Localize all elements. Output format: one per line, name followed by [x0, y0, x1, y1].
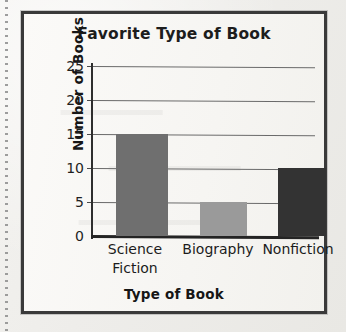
chart-frame: Favorite Type of Book Number of Books 25…: [21, 11, 327, 314]
gridline-25: [93, 66, 315, 68]
x-label-nonfiction: Nonfiction: [256, 240, 340, 259]
y-tick-label-15: 15: [40, 126, 84, 142]
y-tick-label-25: 25: [40, 58, 84, 74]
page-margin-dotted-line: [5, 0, 8, 332]
y-axis-tick-labels: 25 20 15 10 5 0: [32, 14, 84, 317]
plot-area: [93, 66, 315, 236]
x-label-biography: Biography: [177, 240, 259, 259]
y-tick-label-5: 5: [40, 194, 84, 210]
bar-nonfiction[interactable]: [278, 168, 326, 236]
scanned-page-background: Favorite Type of Book Number of Books 25…: [0, 0, 346, 332]
x-axis-title: Type of Book: [24, 286, 324, 302]
x-label-science-fiction-line1: Science: [108, 241, 162, 257]
chart-canvas: Favorite Type of Book Number of Books 25…: [24, 14, 324, 311]
y-tick-label-10: 10: [40, 160, 84, 176]
y-tick-label-20: 20: [40, 92, 84, 108]
x-label-science-fiction: Science Fiction: [91, 240, 179, 278]
bar-biography[interactable]: [200, 202, 247, 236]
gridline-20: [93, 100, 315, 102]
x-label-nonfiction-line1: Nonfiction: [262, 241, 333, 257]
x-label-science-fiction-line2: Fiction: [91, 259, 179, 278]
x-label-biography-line1: Biography: [182, 241, 253, 257]
y-tick-label-0: 0: [40, 228, 84, 244]
bar-science-fiction[interactable]: [116, 134, 168, 236]
